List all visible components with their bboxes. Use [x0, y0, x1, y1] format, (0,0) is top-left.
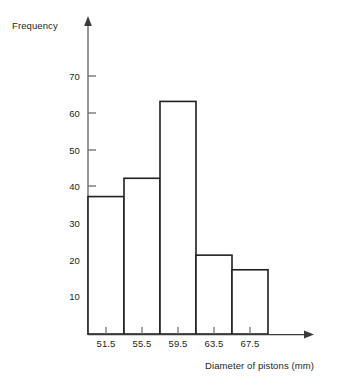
y-tick-label-30: 30 — [69, 218, 80, 229]
chart-canvas: 10 20 30 40 50 60 70 51.555.559.563.567.… — [0, 0, 340, 388]
x-axis-title: Diameter of pistons (mm) — [205, 360, 314, 371]
y-tick-label-50: 50 — [69, 145, 80, 156]
x-tick-label: 67.5 — [241, 338, 260, 349]
y-tick-label-40: 40 — [69, 181, 80, 192]
y-tick-label-60: 60 — [69, 108, 80, 119]
x-tick-label: 59.5 — [169, 338, 188, 349]
histogram-bar — [124, 178, 160, 334]
histogram-chart: 10 20 30 40 50 60 70 51.555.559.563.567.… — [0, 0, 340, 388]
histogram-bar — [196, 255, 232, 334]
x-tick-label: 51.5 — [97, 338, 116, 349]
histogram-bar — [160, 101, 196, 334]
y-tick-label-20: 20 — [69, 255, 80, 266]
y-axis-title: Frequency — [12, 20, 58, 31]
x-tick-label: 55.5 — [133, 338, 152, 349]
y-tick-label-10: 10 — [69, 291, 80, 302]
x-tick-label: 63.5 — [205, 338, 224, 349]
histogram-bar — [88, 197, 124, 334]
y-tick-label-70: 70 — [69, 71, 80, 82]
histogram-bar — [232, 270, 268, 334]
